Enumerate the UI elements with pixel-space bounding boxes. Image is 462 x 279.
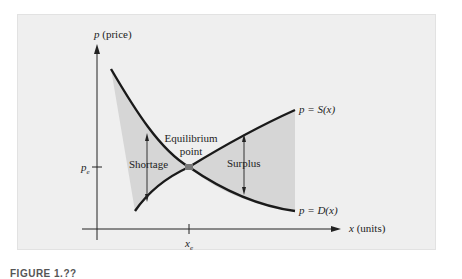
supply-label: p = S(x) — [299, 104, 335, 115]
equilibrium-label-line1: Equilibrium — [163, 133, 219, 144]
surplus-label: Surplus — [227, 158, 261, 169]
x-axis-arrow-icon — [331, 226, 341, 232]
y-axis-label: p (price) — [94, 29, 132, 40]
equilibrium-point-marker — [185, 164, 193, 170]
xe-subscript: e — [190, 244, 193, 252]
shortage-label: Shortage — [129, 159, 168, 170]
pe-subscript: e — [87, 168, 90, 176]
pe-label: pe — [81, 162, 90, 176]
x-axis-label: x (units) — [349, 223, 385, 234]
demand-label: p = D(x) — [299, 205, 338, 216]
figure-caption: FIGURE 1.?? — [10, 268, 77, 279]
y-axis-arrow-icon — [94, 44, 100, 54]
y-axis-unit: (price) — [100, 28, 132, 40]
equilibrium-label-line2: point — [163, 146, 219, 157]
x-axis-unit: (units) — [354, 222, 385, 234]
equilibrium-label: Equilibrium point — [163, 133, 219, 157]
xe-label: xe — [185, 238, 193, 252]
